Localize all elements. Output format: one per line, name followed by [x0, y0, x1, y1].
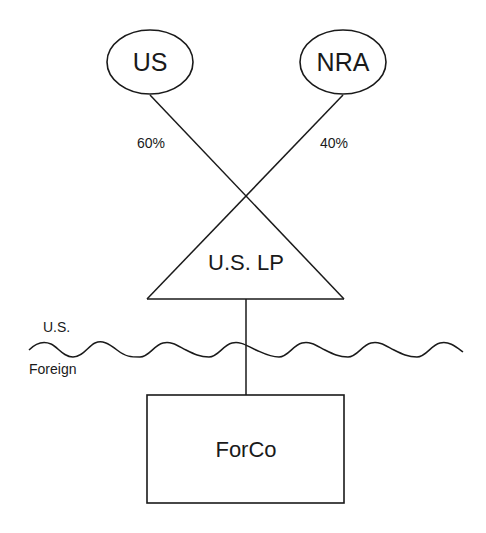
node-nra-label: NRA — [317, 48, 370, 76]
jurisdiction-label-foreign: Foreign — [29, 361, 76, 377]
node-us: US — [107, 30, 193, 94]
edge-us-percentage: 60% — [137, 135, 165, 151]
node-us-label: US — [133, 48, 168, 76]
node-us-lp-label: U.S. LP — [208, 250, 284, 275]
ownership-structure-diagram: US NRA 60% 40% U.S. LP U.S. Foreign ForC… — [0, 0, 486, 533]
node-nra: NRA — [300, 30, 386, 94]
node-us-lp: U.S. LP — [147, 250, 344, 299]
jurisdiction-label-us: U.S. — [43, 319, 70, 335]
edge-nra-percentage: 40% — [320, 135, 348, 151]
node-forco-label: ForCo — [215, 437, 276, 462]
node-forco: ForCo — [147, 395, 344, 503]
